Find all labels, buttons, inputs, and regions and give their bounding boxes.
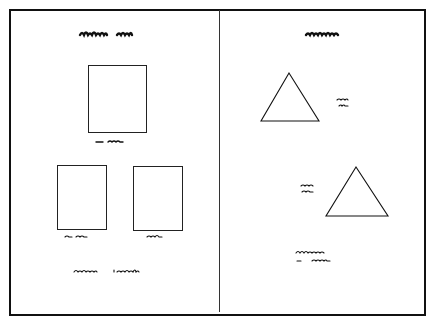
triangle-upper: [261, 73, 319, 121]
right-shapes: [0, 0, 429, 324]
triangle-lower: [326, 167, 388, 216]
